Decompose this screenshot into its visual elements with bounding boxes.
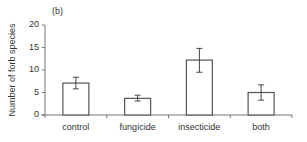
y-tick-label: 5	[19, 87, 39, 97]
y-tick-label: 0	[19, 109, 39, 119]
x-tick-label-control: control	[46, 122, 106, 132]
y-tick-label: 10	[19, 64, 39, 74]
x-tick-label-insecticide: insecticide	[169, 122, 229, 132]
plot-area	[0, 0, 307, 142]
y-tick-label: 20	[19, 19, 39, 29]
x-tick-label-both: both	[231, 122, 291, 132]
y-tick-label: 15	[19, 42, 39, 52]
bar-chart: (b) Number of forb species 05101520 cont…	[0, 0, 307, 142]
x-tick-label-fungicide: fungicide	[108, 122, 168, 132]
